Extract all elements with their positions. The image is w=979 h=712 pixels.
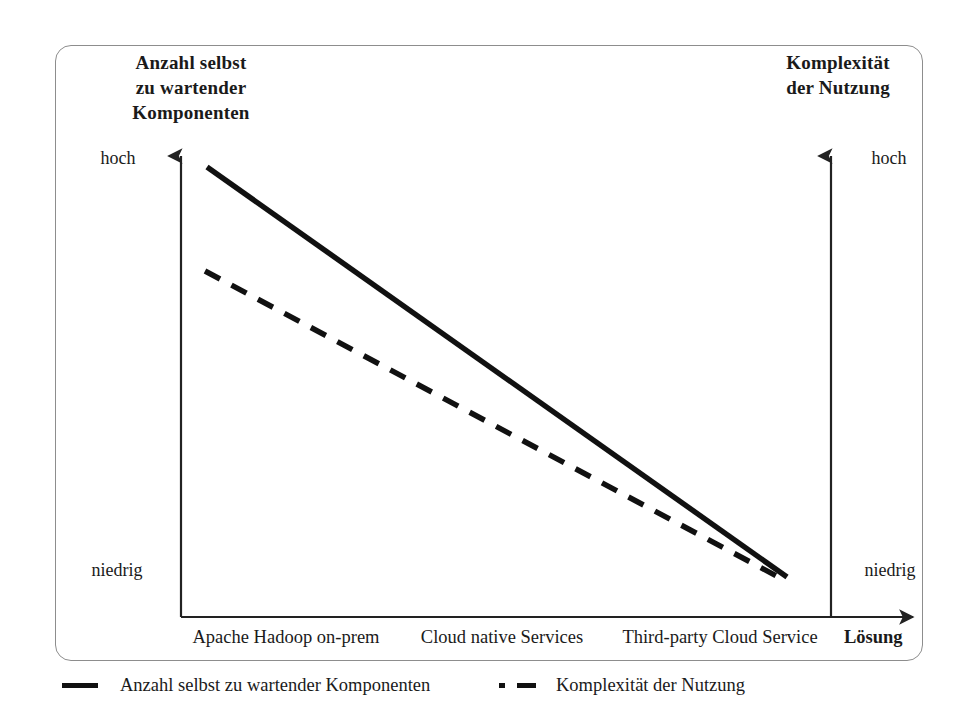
x-axis-category-label: Apache Hadoop on-prem [180, 627, 392, 648]
legend-item-complexity: Komplexität der Nutzung [498, 668, 745, 702]
chart-frame [55, 45, 923, 661]
legend-dashed-line-icon [498, 679, 542, 691]
chart-legend: Anzahl selbst zu wartender Komponenten K… [55, 668, 923, 702]
legend-item-label: Komplexität der Nutzung [556, 675, 745, 696]
x-axis-category-label: Cloud native Services [404, 627, 600, 648]
left-axis-tick-low: niedrig [67, 560, 167, 581]
legend-solid-line-icon [62, 679, 106, 691]
left-axis-title: Anzahl selbst zu wartender Komponenten [106, 50, 276, 125]
legend-item-label: Anzahl selbst zu wartender Komponenten [120, 675, 430, 696]
right-axis-title: Komplexität der Nutzung [758, 50, 918, 100]
right-axis-tick-high: hoch [846, 148, 932, 169]
left-axis-tick-high: hoch [75, 148, 161, 169]
x-axis-title: Lösung [844, 627, 944, 648]
right-axis-tick-low: niedrig [840, 560, 940, 581]
chart-figure: Anzahl selbst zu wartender Komponenten K… [0, 0, 979, 712]
legend-item-components: Anzahl selbst zu wartender Komponenten [62, 668, 430, 702]
x-axis-category-label: Third-party Cloud Service [604, 627, 836, 648]
